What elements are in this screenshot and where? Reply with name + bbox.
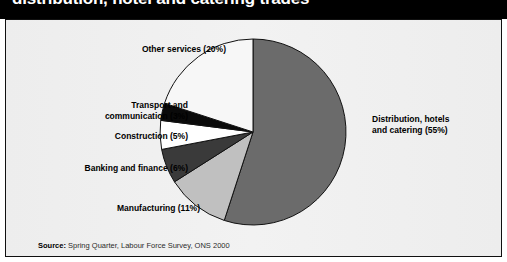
pie-label-banking-and-finance: Banking and finance (6%) [38,163,188,174]
pie-label-distribution-hotels-catering: Distribution, hotels and catering (55%) [372,114,500,136]
pie-label-transport-and-communication: Transport and communication (3%) [58,100,188,122]
title-bar: distribution, hotel and catering trades [0,0,507,19]
page-title: distribution, hotel and catering trades [12,0,309,9]
source-text: Spring Quarter, Labour Force Survey, ONS… [68,241,230,250]
source-note: Source: Spring Quarter, Labour Force Sur… [38,241,230,250]
source-label: Source: [38,241,66,250]
pie-label-manufacturing: Manufacturing (11%) [60,203,200,214]
figure-pie-chart: distribution, hotel and catering trades … [0,0,507,262]
pie-label-other-services: Other services (20%) [96,44,226,55]
pie-label-construction: Construction (5%) [58,131,188,142]
